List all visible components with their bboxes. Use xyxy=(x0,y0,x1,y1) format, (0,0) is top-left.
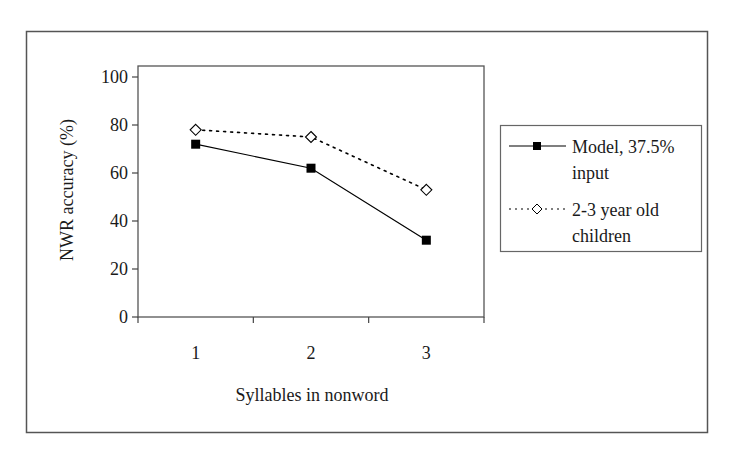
series-children xyxy=(190,124,432,195)
legend-label-children-line2: children xyxy=(572,226,631,246)
plot-area xyxy=(138,66,484,317)
x-axis-title: Syllables in nonword xyxy=(236,385,389,405)
y-tick-label: 40 xyxy=(110,211,128,231)
series-line xyxy=(196,144,427,240)
filled-square-marker-icon xyxy=(422,236,431,245)
filled-square-marker-icon xyxy=(191,140,200,149)
legend: Model, 37.5% input 2-3 year old children xyxy=(501,126,702,252)
filled-square-marker-icon xyxy=(307,164,316,173)
x-tick-label: 3 xyxy=(422,343,431,363)
y-axis-title: NWR accuracy (%) xyxy=(57,119,78,261)
open-diamond-marker-icon xyxy=(306,132,317,143)
y-axis: 020406080100 xyxy=(101,67,138,327)
open-diamond-marker-icon xyxy=(421,184,432,195)
line-chart: 020406080100 123 NWR accuracy (%) Syllab… xyxy=(0,0,733,460)
y-tick-label: 0 xyxy=(119,307,128,327)
chart-container: 020406080100 123 NWR accuracy (%) Syllab… xyxy=(0,0,733,460)
series-layer xyxy=(190,124,432,244)
y-tick-label: 20 xyxy=(110,259,128,279)
y-tick-label: 80 xyxy=(110,115,128,135)
legend-label-model-line2: input xyxy=(572,163,609,183)
series-model xyxy=(191,140,431,245)
y-tick-label: 100 xyxy=(101,67,128,87)
x-tick-label: 2 xyxy=(307,343,316,363)
legend-label-children-line1: 2-3 year old xyxy=(572,200,659,220)
x-axis: 123 xyxy=(138,317,484,363)
filled-square-icon xyxy=(533,142,541,150)
x-tick-label: 1 xyxy=(191,343,200,363)
y-tick-label: 60 xyxy=(110,163,128,183)
legend-label-model-line1: Model, 37.5% xyxy=(572,137,675,157)
open-diamond-marker-icon xyxy=(190,124,201,135)
